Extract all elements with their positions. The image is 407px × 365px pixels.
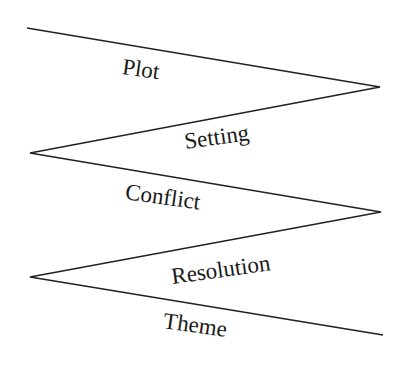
- zigzag-story-diagram: Plot Setting Conflict Resolution Theme: [0, 0, 407, 365]
- zigzag-path: [27, 28, 383, 335]
- zigzag-line: [0, 0, 407, 365]
- label-plot: Plot: [121, 55, 161, 83]
